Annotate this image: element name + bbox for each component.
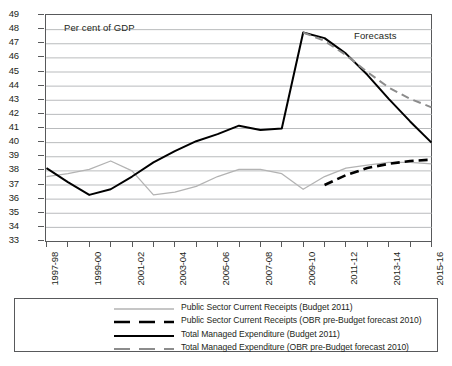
y-axis-tick-label: 37: [9, 179, 19, 189]
x-axis-tick-mark: [89, 242, 90, 247]
y-axis-tick-label: 48: [9, 23, 19, 33]
legend-receipts-obr-2010-swatch: [114, 314, 174, 326]
x-axis-tick-label: 2007-08: [264, 252, 274, 285]
legend-row: Public Sector Current Receipts (Budget 2…: [15, 300, 437, 314]
y-axis-tick-mark: [38, 28, 44, 29]
x-axis-tick-mark: [239, 242, 240, 247]
y-axis-tick-label: 46: [9, 52, 19, 62]
x-axis-tick-label: 2003-04: [178, 252, 188, 285]
x-axis-tick-mark: [217, 242, 218, 247]
plot-lines: [46, 15, 433, 243]
y-axis-tick-label: 43: [9, 94, 19, 104]
legend-row: Total Managed Expenditure (OBR pre-Budge…: [15, 341, 437, 355]
legend-tme-obr-2010-label: Total Managed Expenditure (OBR pre-Budge…: [181, 341, 409, 353]
x-axis-tick-mark: [281, 242, 282, 247]
y-axis-tick-label: 44: [9, 80, 19, 90]
series-line-0: [47, 161, 432, 195]
y-axis-tick-label: 45: [9, 66, 19, 76]
x-axis-tick-mark: [153, 242, 154, 247]
y-axis-tick-mark: [38, 212, 44, 213]
legend-row: Total Managed Expenditure (Budget 2011): [15, 327, 437, 341]
y-axis-tick-label: 47: [9, 38, 19, 48]
y-axis-tick-label: 39: [9, 151, 19, 161]
y-axis-tick-mark: [38, 127, 44, 128]
y-axis-tick-mark: [38, 99, 44, 100]
y-axis-tick-mark: [38, 169, 44, 170]
legend-tme-budget-2011-swatch: [114, 328, 174, 340]
x-axis-tick-label: 2001-02: [136, 252, 146, 285]
y-axis-tick-mark: [38, 56, 44, 57]
x-axis-tick-mark: [174, 242, 175, 247]
legend-receipts-obr-2010-label: Public Sector Current Receipts (OBR pre-…: [181, 314, 422, 326]
x-axis-tick-mark: [324, 242, 325, 247]
x-axis-tick-mark: [431, 242, 432, 247]
x-axis-tick-mark: [196, 242, 197, 247]
x-axis-tick-label: 2015-16: [435, 252, 445, 285]
legend-row: Public Sector Current Receipts (OBR pre-…: [15, 314, 437, 328]
legend-tme-budget-2011-label: Total Managed Expenditure (Budget 2011): [181, 328, 340, 340]
x-axis-tick-mark: [67, 242, 68, 247]
x-axis-tick-mark: [345, 242, 346, 247]
y-axis-tick-label: 33: [9, 235, 19, 245]
x-axis-tick-label: 2005-06: [221, 252, 231, 285]
x-axis-tick-label: 1997-98: [50, 252, 60, 285]
y-axis-tick-mark: [38, 155, 44, 156]
x-axis-tick-label: 1999-00: [93, 252, 103, 285]
plot-area: [45, 14, 432, 242]
y-axis-tick-mark: [38, 42, 44, 43]
y-axis-tick-label: 42: [9, 108, 19, 118]
chart-legend: Public Sector Current Receipts (Budget 2…: [14, 298, 438, 352]
x-axis-tick-label: 2009-10: [307, 252, 317, 285]
x-axis-tick-mark: [132, 242, 133, 247]
y-axis-tick-label: 40: [9, 136, 19, 146]
y-axis-tick-mark: [38, 240, 44, 241]
legend-tme-obr-2010-swatch: [114, 341, 174, 353]
y-axis-tick-label: 36: [9, 193, 19, 203]
y-axis-tick-mark: [38, 184, 44, 185]
y-axis-tick-mark: [38, 198, 44, 199]
legend-receipts-budget-2011-label: Public Sector Current Receipts (Budget 2…: [181, 301, 353, 313]
y-axis-tick-mark: [38, 85, 44, 86]
forecasts-annotation: Forecasts: [354, 30, 397, 41]
x-axis-tick-mark: [46, 242, 47, 247]
y-axis-tick-label: 49: [9, 9, 19, 18]
x-axis-tick-label: 2011-12: [349, 252, 359, 285]
y-axis-tick-label: 38: [9, 165, 19, 175]
chart-figure: 3334353637383940414243444546474849 1997-…: [0, 0, 452, 366]
y-axis: 3334353637383940414243444546474849: [0, 0, 45, 250]
units-annotation: Per cent of GDP: [64, 22, 135, 33]
y-axis-tick-mark: [38, 226, 44, 227]
x-axis-tick-mark: [367, 242, 368, 247]
x-axis-tick-mark: [110, 242, 111, 247]
y-axis-tick-mark: [38, 71, 44, 72]
x-axis-tick-mark: [260, 242, 261, 247]
x-axis-tick-mark: [388, 242, 389, 247]
y-axis-tick-mark: [38, 113, 44, 114]
x-axis-tick-mark: [410, 242, 411, 247]
x-axis-tick-mark: [303, 242, 304, 247]
y-axis-tick-mark: [38, 14, 44, 15]
y-axis-tick-label: 34: [9, 221, 19, 231]
legend-receipts-budget-2011-swatch: [114, 301, 174, 313]
y-axis-tick-label: 41: [9, 122, 19, 132]
y-axis-tick-mark: [38, 141, 44, 142]
y-axis-tick-label: 35: [9, 207, 19, 217]
x-axis-tick-label: 2013-14: [392, 252, 402, 285]
